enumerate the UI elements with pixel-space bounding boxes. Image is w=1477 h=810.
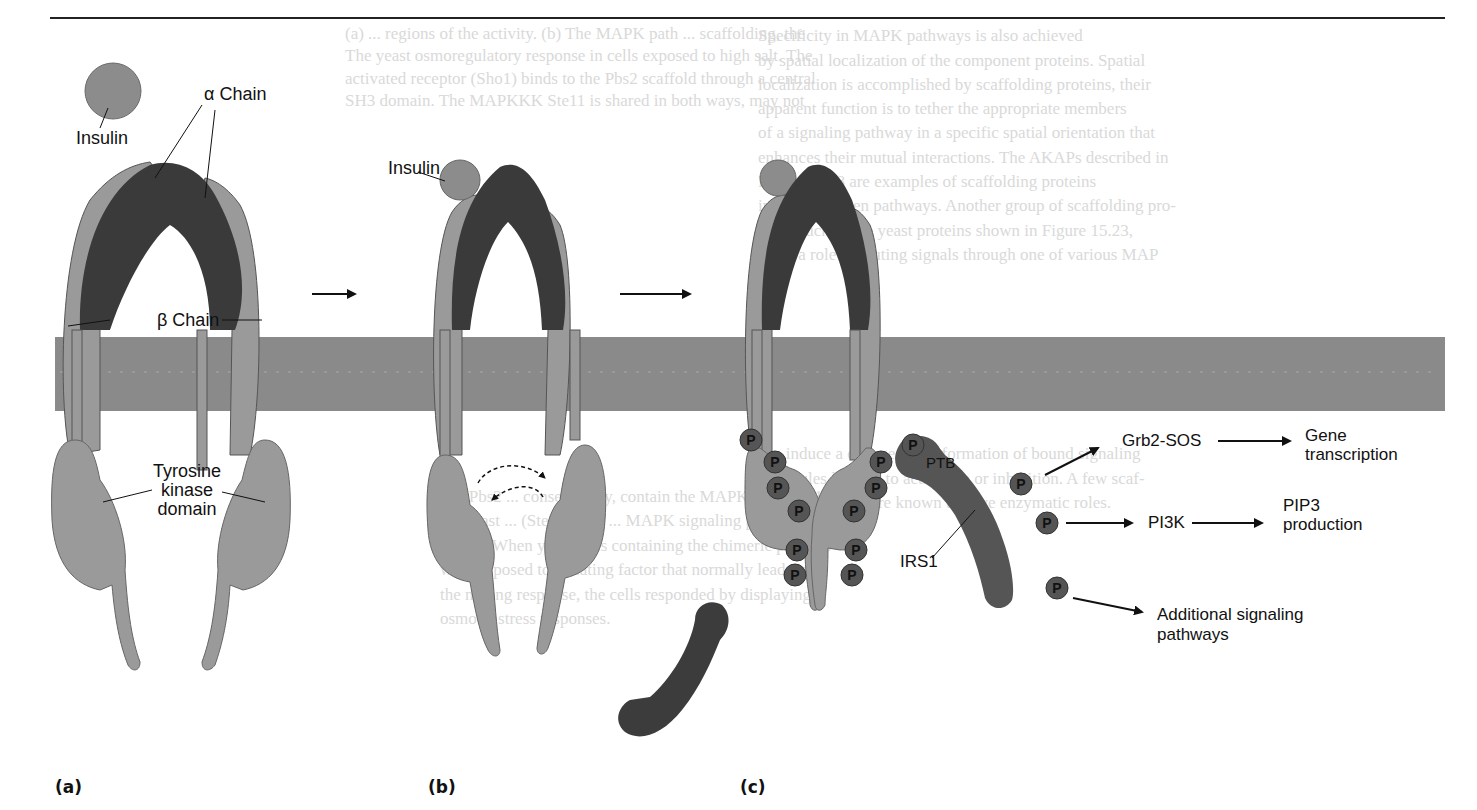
label-line: pathways: [1157, 625, 1304, 645]
label-gene-transcription: Gene transcription: [1305, 426, 1398, 464]
phospho-icon: P: [1036, 512, 1058, 534]
svg-text:P: P: [746, 432, 755, 448]
label-line: Additional signaling: [1157, 605, 1304, 625]
label-line: Gene: [1305, 426, 1398, 445]
label-line: transcription: [1305, 445, 1398, 464]
svg-text:P: P: [792, 542, 801, 558]
insulin-bound: [440, 160, 480, 200]
arrow-to-additional-pathways: [1073, 598, 1142, 612]
insulin-molecule: [85, 63, 141, 119]
svg-text:P: P: [847, 567, 856, 583]
irs1-free: [618, 602, 728, 736]
svg-text:P: P: [1052, 580, 1061, 596]
phospho-icon: P: [767, 477, 789, 499]
label-line: Tyrosine: [153, 462, 221, 481]
svg-text:P: P: [790, 567, 799, 583]
svg-text:P: P: [1016, 476, 1025, 492]
svg-text:P: P: [851, 542, 860, 558]
svg-text:P: P: [876, 454, 885, 470]
phospho-icon: P: [841, 564, 863, 586]
phospho-icon: P: [845, 539, 867, 561]
panel-label-a: (a): [55, 777, 82, 797]
label-pi3k: PI3K: [1148, 513, 1185, 533]
label-tyrosine-kinase-domain: Tyrosine kinase domain: [153, 462, 221, 519]
svg-text:P: P: [794, 503, 803, 519]
svg-text:P: P: [908, 437, 917, 453]
svg-text:P: P: [770, 454, 779, 470]
label-pip3-production: PIP3 production: [1283, 496, 1362, 534]
label-additional-signaling-pathways: Additional signaling pathways: [1157, 605, 1304, 645]
label-alpha-chain: α Chain: [204, 84, 266, 104]
label-beta-chain: β Chain: [157, 310, 219, 330]
phospho-icon: P: [870, 451, 892, 473]
insulin-receptor-figure: P P P P P P P P P P P P P P P: [0, 0, 1477, 810]
svg-text:P: P: [871, 480, 880, 496]
panel-b-receptor: [418, 160, 729, 736]
svg-text:P: P: [1042, 515, 1051, 531]
phospho-icon: P: [788, 500, 810, 522]
transphosphorylation-arrow-1: [478, 466, 545, 483]
label-insulin-bound: Insulin: [388, 158, 440, 178]
phospho-icon: P: [1046, 577, 1068, 599]
label-line: kinase: [153, 481, 221, 500]
phospho-icon: P: [764, 451, 786, 473]
label-line: PIP3: [1283, 496, 1362, 515]
phospho-icon: P: [1010, 473, 1032, 495]
label-irs1: IRS1: [900, 552, 938, 572]
phospho-icon: P: [865, 477, 887, 499]
label-grb2-sos: Grb2-SOS: [1122, 431, 1201, 451]
phospho-icon: P: [740, 429, 762, 451]
label-ptb: PTB: [926, 453, 955, 473]
label-insulin-free: Insulin: [76, 128, 128, 148]
svg-text:P: P: [849, 503, 858, 519]
panel-label-c: (c): [740, 777, 766, 797]
phospho-icon: P: [843, 500, 865, 522]
arrow-to-grb2-sos: [1045, 448, 1098, 475]
label-line: production: [1283, 515, 1362, 534]
phospho-icon: P: [784, 564, 806, 586]
label-line: domain: [153, 500, 221, 519]
panel-label-b: (b): [428, 777, 456, 797]
phospho-icon: P: [786, 539, 808, 561]
svg-text:P: P: [773, 480, 782, 496]
transphosphorylation-arrow-2: [492, 487, 543, 500]
phospho-icon: P: [902, 434, 924, 456]
